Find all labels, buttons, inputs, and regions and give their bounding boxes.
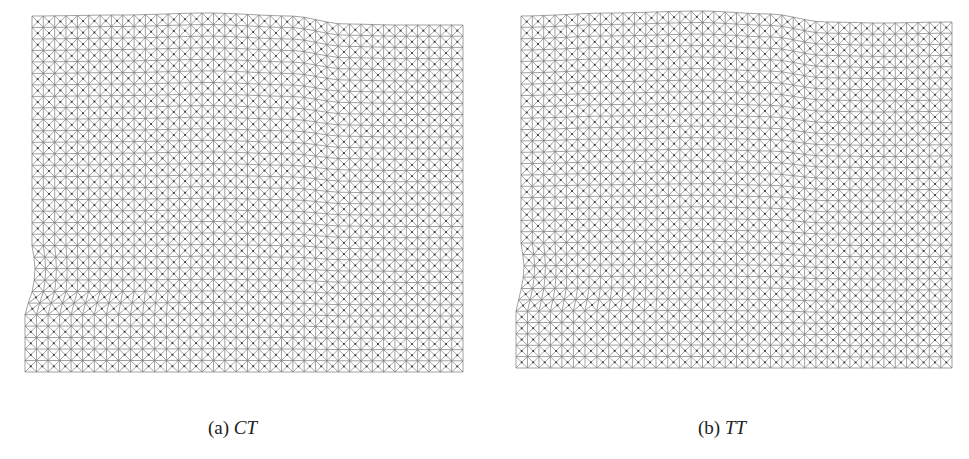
caption-b-label: (b) — [698, 417, 720, 438]
caption-b: (b) TT — [698, 417, 746, 439]
mesh-lines — [516, 11, 952, 368]
caption-a: (a) CT — [208, 417, 257, 439]
mesh-plot-tt — [0, 0, 969, 459]
caption-b-math: TT — [725, 417, 746, 438]
caption-a-math: CT — [234, 417, 257, 438]
caption-a-label: (a) — [208, 417, 229, 438]
